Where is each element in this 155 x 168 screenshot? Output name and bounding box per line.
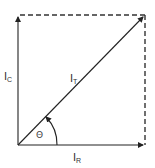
- it-label-sub: T: [73, 78, 77, 85]
- phasor-diagram: [0, 0, 155, 168]
- ic-label-sub: C: [7, 76, 12, 83]
- ir-label: IR: [73, 152, 81, 164]
- theta-label: Θ: [36, 131, 43, 140]
- ir-label-sub: R: [76, 157, 81, 164]
- it-label: IT: [70, 73, 77, 85]
- angle-arc: [46, 117, 57, 145]
- it-vector: [18, 17, 143, 145]
- ic-label: IC: [4, 71, 12, 83]
